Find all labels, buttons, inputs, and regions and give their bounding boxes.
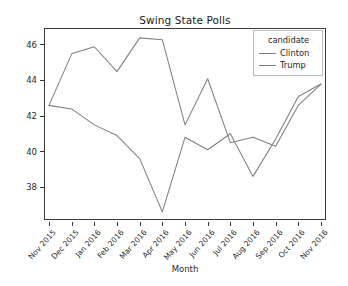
x-tick-mark [94,222,95,226]
legend-item-label: Trump [280,60,306,70]
legend-item-clinton[interactable]: Clinton [259,48,318,58]
top-edge-artifact [0,0,348,11]
legend-title: candidate [259,35,318,45]
x-tick-mark [185,222,186,226]
x-tick-mark [49,222,50,226]
y-tick-label: 40 [7,147,37,157]
x-axis-tick-labels: Nov 2015Dec 2015Jan 2016Feb 2016Mar 2016… [44,222,326,266]
x-tick-mark [276,222,277,226]
legend-item-label: Clinton [280,48,309,58]
x-tick-mark [72,222,73,226]
chart-figure: Swing State Polls 3840424446 Average Per… [0,0,348,286]
y-axis-tick-labels: 3840424446 [0,28,44,220]
legend-item-trump[interactable]: Trump [259,60,318,70]
legend-line-swatch [259,65,276,66]
series-line-trump [49,84,321,212]
chart-title: Swing State Polls [48,14,322,26]
x-tick-mark [117,222,118,226]
x-tick-mark [208,222,209,226]
x-tick-mark [162,222,163,226]
legend-entries: ClintonTrump [259,48,318,70]
legend: candidate ClintonTrump [253,30,323,76]
x-tick-mark [321,222,322,226]
y-tick-label: 44 [7,75,37,85]
x-axis-label: Month [44,264,326,274]
y-tick-label: 46 [7,40,37,50]
y-tick-label: 42 [7,111,37,121]
x-tick-mark [298,222,299,226]
legend-line-swatch [259,53,276,54]
y-tick-label: 38 [7,182,37,192]
x-tick-mark [140,222,141,226]
x-tick-mark [230,222,231,226]
x-tick-mark [253,222,254,226]
